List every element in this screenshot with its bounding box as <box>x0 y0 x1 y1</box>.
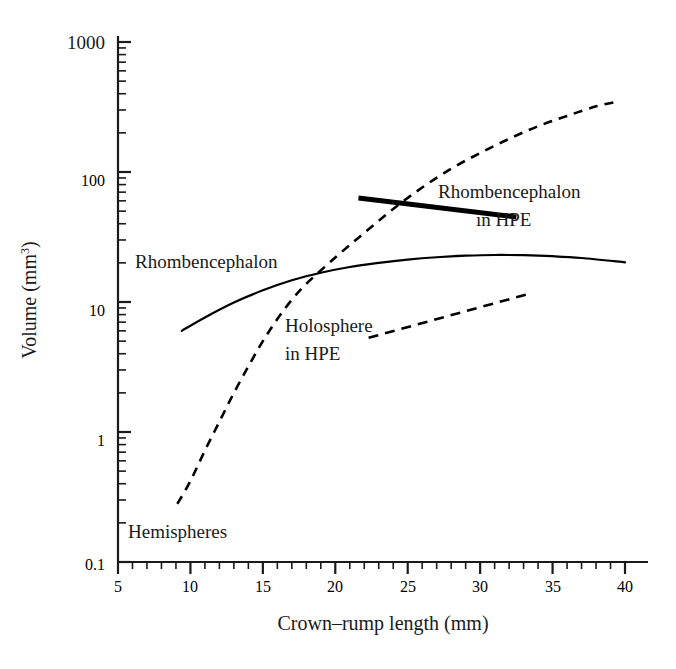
y-tick-label-10: 10 <box>89 302 105 319</box>
y-axis-title-tail: ) <box>18 241 41 248</box>
x-tick-label-25: 25 <box>400 578 416 595</box>
x-tick-label-15: 15 <box>255 578 271 595</box>
y-axis-title-base: Volume (mm <box>18 254 41 359</box>
volume-vs-crown-rump-length-chart: 1000 <box>0 0 676 669</box>
annotation-holosphere-in-hpe-line2: in HPE <box>285 343 340 364</box>
x-axis-ticks <box>118 562 625 574</box>
y-axis-ticks <box>118 42 131 562</box>
x-tick-label-20: 20 <box>327 578 343 595</box>
x-tick-label-40: 40 <box>617 578 633 595</box>
curve-annotations: Rhombencephalon Rhombencephalon in HPE H… <box>128 181 581 542</box>
x-axis-title-text: Crown–rump length (mm) <box>277 612 488 635</box>
annotation-rhombencephalon-in-hpe-line2: in HPE <box>476 209 531 230</box>
annotation-rhombencephalon: Rhombencephalon <box>135 251 278 272</box>
x-tick-label-30: 30 <box>472 578 488 595</box>
y-axis-tick-labels: 1000 <box>67 32 105 573</box>
y-tick-label-100: 100 <box>81 172 105 189</box>
x-tick-label-35: 35 <box>545 578 561 595</box>
y-axis-title: Volume (mm3) <box>18 241 41 358</box>
annotation-holosphere-in-hpe-line1: Holosphere <box>285 315 373 336</box>
x-tick-label-5: 5 <box>114 578 122 595</box>
x-axis-tick-labels: 5 10 15 20 25 30 35 40 <box>114 578 633 595</box>
curve-holosphere-in-hpe <box>369 294 528 338</box>
x-tick-label-10: 10 <box>182 578 198 595</box>
axis-lines <box>118 36 648 562</box>
y-tick-label-1: 1 <box>97 432 105 449</box>
annotation-hemispheres: Hemispheres <box>128 521 227 542</box>
figure-root: 1000 <box>0 0 676 669</box>
y-tick-label-1000: 1000 <box>67 32 105 53</box>
y-tick-label-0.1: 0.1 <box>85 556 105 573</box>
curve-hemispheres <box>177 101 619 504</box>
annotation-rhombencephalon-in-hpe-line1: Rhombencephalon <box>438 181 581 202</box>
data-curves <box>177 101 625 504</box>
x-axis-title: Crown–rump length (mm) <box>277 612 488 635</box>
